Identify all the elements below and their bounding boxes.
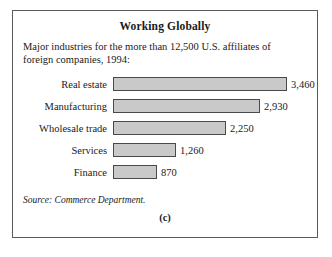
chart-figure-panel: Working Globally Major industries for th… [12, 10, 318, 238]
bar [113, 99, 260, 113]
bar-category-label: Manufacturing [17, 101, 113, 112]
bar-track: 870 [113, 165, 317, 179]
bar-category-label: Wholesale trade [17, 123, 113, 134]
bar [113, 77, 287, 91]
bar-track: 3,460 [113, 77, 317, 91]
bar-track: 2,930 [113, 99, 317, 113]
bar-row: Wholesale trade2,250 [17, 117, 317, 139]
bar-value-label: 870 [157, 167, 177, 178]
bar-track: 2,250 [113, 121, 317, 135]
bar-value-label: 2,250 [226, 123, 254, 134]
bar-category-label: Services [17, 145, 113, 156]
panel-caption: (c) [13, 212, 317, 223]
bar-row: Services1,260 [17, 139, 317, 161]
bar-chart-plot-area: Real estate3,460Manufacturing2,930Wholes… [13, 73, 317, 183]
bar-row: Finance870 [17, 161, 317, 183]
bar-value-label: 1,260 [176, 145, 204, 156]
bar-category-label: Finance [17, 167, 113, 178]
source-note: Source: Commerce Department. [23, 195, 317, 205]
chart-subtitle: Major industries for the more than 12,50… [23, 41, 301, 66]
chart-title: Working Globally [13, 20, 317, 32]
bar [113, 143, 176, 157]
bar [113, 121, 226, 135]
bar-value-label: 3,460 [287, 79, 315, 90]
bar-row: Manufacturing2,930 [17, 95, 317, 117]
bar-category-label: Real estate [17, 79, 113, 90]
bar [113, 165, 157, 179]
bar-row: Real estate3,460 [17, 73, 317, 95]
bar-track: 1,260 [113, 143, 317, 157]
bar-value-label: 2,930 [260, 101, 288, 112]
